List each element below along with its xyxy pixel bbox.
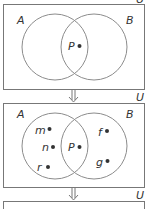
element-dot xyxy=(105,129,109,133)
element-label: f xyxy=(98,126,104,139)
set-b-label: B xyxy=(126,14,134,27)
universe-label: U xyxy=(136,189,144,202)
element-label: g xyxy=(96,156,103,169)
element-label: P xyxy=(68,40,75,53)
venn-panel-2: U A B m n r P f g xyxy=(4,91,145,188)
universe-box xyxy=(4,202,145,210)
element-dot xyxy=(78,44,82,48)
universe-label: U xyxy=(136,0,144,6)
down-arrow-icon xyxy=(69,188,78,200)
element-label: P xyxy=(68,141,75,154)
element-dot xyxy=(46,165,50,169)
down-arrow-icon xyxy=(69,90,78,102)
universe-label: U xyxy=(136,91,144,104)
set-a-label: A xyxy=(16,14,25,27)
set-a-label: A xyxy=(16,108,25,121)
element-label: m xyxy=(35,124,46,137)
element-label: n xyxy=(42,141,49,154)
set-b-label: B xyxy=(126,108,134,121)
venn-diagram-sequence: U A B P U A B m n r P f g xyxy=(0,0,147,209)
element-dot xyxy=(48,127,52,131)
element-dot xyxy=(51,145,55,149)
element-dot xyxy=(106,159,110,163)
element-dot xyxy=(78,145,82,149)
venn-panel-1: U A B P xyxy=(4,0,145,90)
element-label: r xyxy=(37,161,43,174)
